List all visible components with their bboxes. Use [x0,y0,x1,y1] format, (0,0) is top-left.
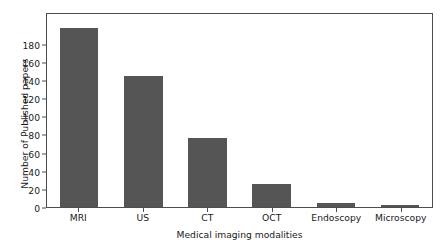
x-axis-label: Medical imaging modalities [46,229,433,240]
x-tick-mark [401,208,402,212]
y-tick-label: 80 [6,130,40,141]
bar [381,205,420,207]
x-tick-mark [272,208,273,212]
bar-slot [175,14,239,207]
y-tick-label: 0 [6,203,40,214]
x-tick-mark [207,208,208,212]
x-tick-mark [143,208,144,212]
y-tick-label: 20 [6,184,40,195]
x-tick-mark [336,208,337,212]
y-tick-label: 180 [6,39,40,50]
bar-chart-figure: Number of Published papers 0204060801001… [0,0,445,247]
x-tick-mark [78,208,79,212]
y-tick-label: 40 [6,166,40,177]
bar [317,203,356,207]
y-tick-label: 60 [6,148,40,159]
bar-slot [47,14,111,207]
bar [60,28,99,207]
bar-slot [240,14,304,207]
y-tick-label: 140 [6,76,40,87]
bar-series [47,14,432,207]
bar [124,76,163,207]
plot-area [46,13,433,208]
x-tick-label: Microscopy [375,212,426,223]
bar [188,138,227,207]
bar [252,184,291,207]
x-tick-label: CT [201,212,213,223]
x-tick-label: OCT [262,212,281,223]
bar-slot [111,14,175,207]
y-tick-label: 100 [6,112,40,123]
y-tick-label: 160 [6,57,40,68]
x-tick-label: US [136,212,149,223]
y-tick-label: 120 [6,94,40,105]
x-tick-label: MRI [70,212,87,223]
bar-slot [304,14,368,207]
x-tick-label: Endoscopy [311,212,361,223]
bar-slot [368,14,432,207]
